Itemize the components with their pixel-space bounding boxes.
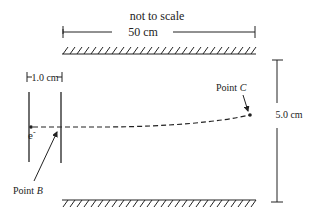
height-label: 5.0 cm [275,109,302,120]
gap-dimension: 1.0 cm [27,72,62,83]
point-c-arrow [243,95,248,111]
point-c-dot [248,113,252,117]
gap-label: 1.0 cm [31,72,58,83]
length-label: 50 cm [128,25,158,39]
height-dimension: 5.0 cm [271,60,303,202]
deflection-diagram: not to scale 50 cm [0,0,310,215]
not-to-scale-note: not to scale [130,9,185,23]
point-b-arrow [34,132,57,181]
top-plate [62,47,256,54]
electron-trajectory [33,115,250,127]
electron-label: e- [28,128,36,141]
point-c-label: Point C [216,82,247,93]
point-b-label: Point B [13,185,43,196]
length-dimension: 50 cm [63,25,255,39]
bottom-plate [62,200,256,207]
